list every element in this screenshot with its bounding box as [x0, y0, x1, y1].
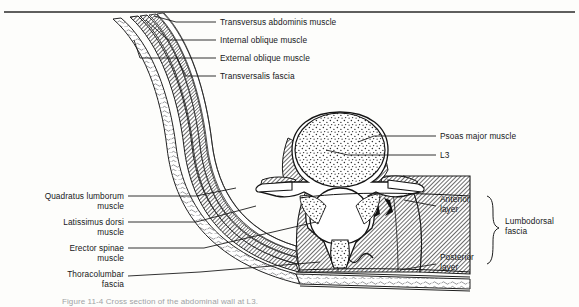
abdominal-wall-layers: [113, 13, 300, 284]
figure-caption: Figure 11-4 Cross section of the abdomin…: [62, 297, 258, 306]
anatomical-figure: Transversus abdominis muscle Internal ob…: [0, 0, 579, 307]
leader-thoracolumbar-fascia: [128, 272, 200, 276]
posterior-fascial-sheet: [296, 272, 470, 291]
lumbodorsal-brace: [487, 196, 499, 264]
spinous-process: [331, 240, 350, 268]
vertebral-body: [295, 113, 385, 187]
anatomy-illustration: [0, 0, 579, 307]
artist-signature: J. V. S.: [352, 268, 371, 274]
